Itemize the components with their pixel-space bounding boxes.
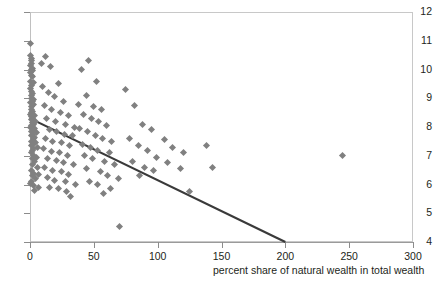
x-tick-label: 200 [265, 250, 305, 262]
y-tick-label: 6 [412, 179, 432, 189]
x-tick-mark [413, 242, 414, 248]
x-tick-label: 300 [393, 250, 433, 262]
y-tick-label: 9 [412, 92, 432, 102]
x-tick-label: 250 [329, 250, 369, 262]
x-tick-label: 100 [138, 250, 178, 262]
y-tick-label: 4 [412, 236, 432, 246]
y-tick-label: 5 [412, 207, 432, 217]
y-tick-mark [24, 213, 30, 214]
x-tick-mark [285, 242, 286, 248]
y-tick-label: 10 [412, 64, 432, 74]
x-tick-label: 0 [10, 250, 50, 262]
x-tick-label: 150 [202, 250, 242, 262]
y-tick-label: 8 [412, 121, 432, 131]
x-tick-mark [94, 242, 95, 248]
x-tick-mark [158, 242, 159, 248]
x-axis-title: percent share of natural wealth in total… [213, 264, 424, 276]
y-tick-label: 12 [412, 6, 432, 16]
x-tick-label: 50 [74, 250, 114, 262]
y-tick-mark [24, 12, 30, 13]
x-tick-mark [349, 242, 350, 248]
x-tick-mark [222, 242, 223, 248]
x-tick-mark [30, 242, 31, 248]
y-tick-label: 7 [412, 150, 432, 160]
y-tick-label: 11 [412, 35, 432, 45]
